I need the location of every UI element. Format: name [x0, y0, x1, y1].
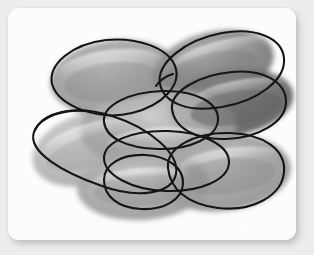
screenshot-root: Overlapping Stones Study grayscale wash … — [0, 0, 314, 255]
artwork-card: Overlapping Stones Study grayscale wash … — [8, 8, 296, 240]
artwork-canvas — [8, 8, 296, 240]
